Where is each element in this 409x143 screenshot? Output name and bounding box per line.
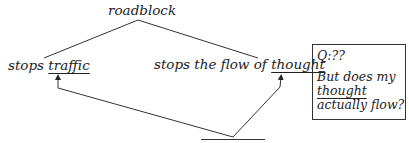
note-line-3-flow: flow?	[367, 97, 404, 112]
right-node: stops the flow of thought	[154, 58, 325, 72]
note-line-2: thought	[317, 84, 401, 98]
left-node-prefix: stops	[8, 57, 48, 73]
arrow-to-thought	[233, 77, 281, 137]
right-node-prefix: stops the flow of	[154, 56, 271, 72]
note-line-3-actually: actually	[317, 97, 367, 112]
left-node: stops traffic	[8, 59, 90, 73]
note-line-3: actually flow?	[317, 98, 401, 112]
left-node-keyword: traffic	[48, 57, 89, 73]
root-node-roadblock: roadblock	[108, 4, 176, 18]
note-line-1: But does my	[317, 70, 401, 84]
edge-root-right	[138, 20, 258, 58]
note-q-label: Q:??	[317, 49, 401, 63]
question-note-box: Q:?? But does my thought actually flow?	[312, 44, 406, 120]
edge-root-left	[44, 20, 138, 58]
arrow-to-traffic	[58, 77, 233, 137]
